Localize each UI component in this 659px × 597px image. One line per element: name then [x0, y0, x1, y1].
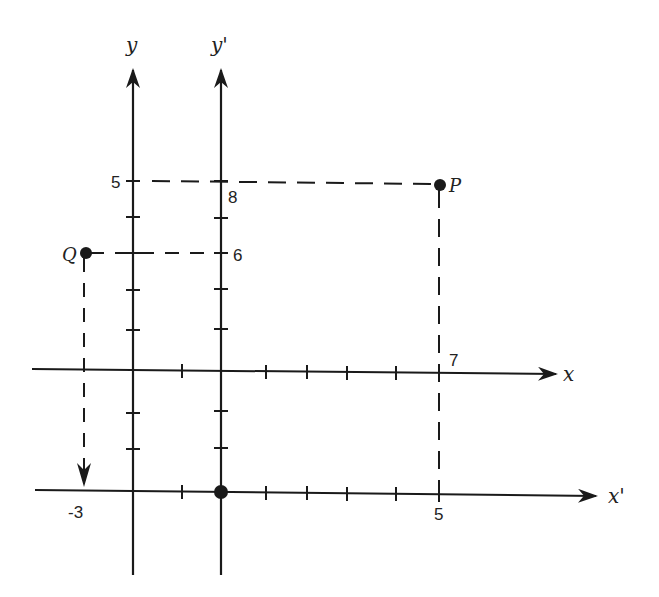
tick-label-x-7: 7: [449, 351, 458, 370]
coordinate-translation-diagram: y y' x: [0, 0, 659, 597]
tick-label-y-5: 5: [111, 173, 120, 192]
x-prime-axis-label: x': [608, 484, 625, 508]
q-projection-lines: [84, 253, 212, 470]
x-prime-axis: x': [35, 484, 625, 508]
y-axis-label: y: [125, 33, 138, 57]
point-p-label: P: [448, 175, 462, 196]
tick-label-xprime-5: 5: [434, 505, 443, 524]
point-q-label: Q: [62, 244, 77, 265]
tick-label-yprime-6: 6: [233, 246, 242, 265]
point-p: [434, 179, 446, 191]
tick-label-yprime-8: 8: [228, 188, 237, 207]
y-axis: y: [125, 33, 140, 575]
new-origin-point: [214, 485, 228, 499]
x-axis-label: x: [563, 362, 574, 386]
p-projection-lines: [152, 181, 439, 492]
x-axis: x: [32, 362, 574, 386]
y-prime-axis-label: y': [210, 33, 228, 57]
tick-label-xprime-neg3: -3: [68, 503, 83, 522]
point-q: [80, 247, 92, 259]
